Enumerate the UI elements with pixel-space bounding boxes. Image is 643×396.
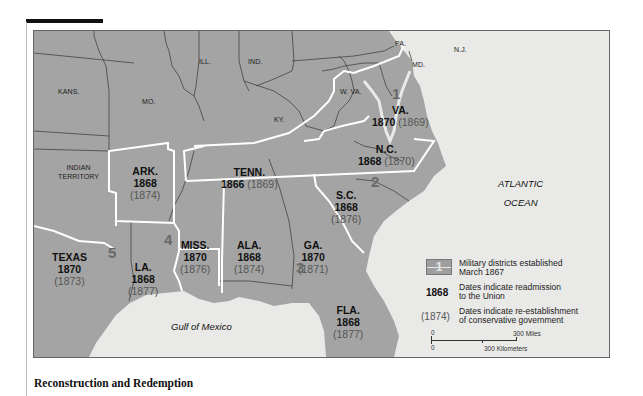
state-mississippi: MISS. 1870 (1876): [180, 239, 210, 275]
state-virginia: VA. 1870 (1869): [372, 104, 429, 128]
margin-rule: [26, 22, 27, 396]
label-new-jersey: N.J.: [454, 46, 467, 53]
scale-line: [431, 340, 517, 341]
legend-districts-text: Military districts established March 186…: [459, 259, 562, 277]
district-swatch-icon: 1: [426, 259, 452, 275]
scale-tick-miles: [516, 337, 517, 341]
label-missouri: MO.: [142, 98, 156, 105]
district-2: 2: [371, 173, 379, 190]
state-alabama: ALA. 1868 (1874): [234, 239, 264, 275]
legend-conservative-text: Dates indicate re-establishment of conse…: [459, 307, 578, 325]
label-pennsylvania: PA.: [395, 40, 406, 47]
state-south-carolina: S.C. 1868 (1876): [331, 189, 361, 225]
district-3: 3: [296, 259, 304, 276]
label-atlantic-ocean: ATLANTIC OCEAN: [498, 174, 543, 212]
map-frame: KANS. MO. ILL. IND. KY. W. VA. PA. MD. N…: [33, 30, 610, 358]
district-5: 5: [108, 244, 116, 261]
district-4: 4: [164, 231, 172, 248]
scale-tick-start: [431, 336, 432, 344]
state-tennessee: TENN. 1866 (1869): [221, 166, 278, 190]
state-louisiana: LA. 1868 (1877): [128, 261, 158, 297]
legend-conservative-sample: (1874): [421, 311, 450, 322]
state-texas: TEXAS 1870 (1873): [52, 251, 87, 287]
label-kentucky: KY.: [274, 116, 285, 123]
scale-tick-km: [482, 340, 483, 343]
legend-readmission-text: Dates indicate readmission to the Union: [459, 283, 561, 301]
title-rule: [26, 19, 103, 23]
label-indiana: IND.: [248, 58, 262, 65]
label-indian-territory: INDIAN TERRITORY: [58, 163, 99, 181]
label-illinois: ILL.: [199, 58, 211, 65]
legend-readmission-sample: 1868: [426, 287, 448, 298]
state-florida: FLA. 1868 (1877): [333, 304, 363, 340]
state-north-carolina: N.C. 1868 (1870): [358, 143, 415, 167]
label-kansas: KANS.: [58, 88, 80, 95]
label-gulf-of-mexico: Gulf of Mexico: [171, 321, 232, 333]
map-caption: Reconstruction and Redemption: [34, 377, 193, 389]
label-west-virginia: W. VA.: [340, 88, 361, 95]
state-arkansas: ARK. 1868 (1874): [130, 165, 160, 201]
district-1: 1: [392, 85, 400, 102]
label-maryland: MD.: [412, 61, 425, 68]
